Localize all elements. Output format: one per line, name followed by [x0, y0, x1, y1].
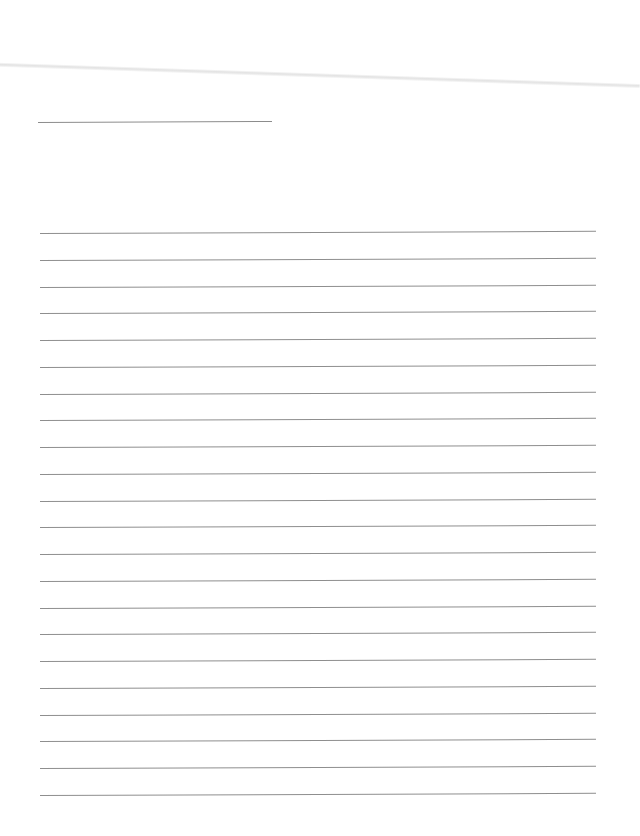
ruled-line [40, 659, 596, 662]
ruled-line [40, 498, 596, 501]
ruled-line [40, 552, 596, 555]
ruled-line [40, 739, 596, 742]
ruled-line [40, 284, 596, 287]
ruled-line [40, 418, 596, 421]
ruled-line [40, 766, 596, 769]
title-line [38, 121, 272, 123]
ruled-line [40, 311, 596, 314]
ruled-line [40, 712, 596, 715]
ruled-line [40, 231, 596, 234]
ruled-line [40, 445, 596, 448]
ruled-line [40, 365, 596, 368]
ruled-line [40, 793, 596, 796]
ruled-line [40, 632, 596, 635]
scan-streak [0, 62, 640, 89]
ruled-line [40, 472, 596, 475]
ruled-line [40, 525, 596, 528]
ruled-line [40, 579, 596, 582]
ruled-line [40, 258, 596, 261]
ruled-line [40, 338, 596, 341]
ruled-line [40, 605, 596, 608]
ruled-line [40, 391, 596, 394]
ruled-line [40, 686, 596, 689]
